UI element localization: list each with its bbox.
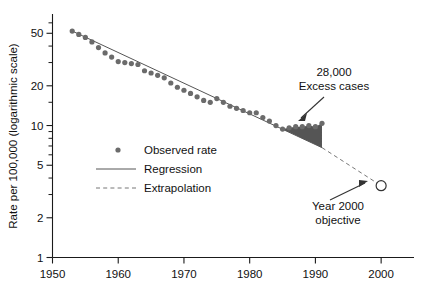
observed-data-point [129, 61, 134, 66]
y-axis-ticks: 125102050 [31, 23, 53, 264]
annotation-excess-cases: 28,000 Excess cases [298, 66, 369, 121]
observed-data-point [254, 110, 259, 115]
observed-data-point [306, 123, 311, 128]
x-tick-label: 1950 [40, 268, 66, 280]
observed-data-point [319, 121, 324, 126]
year-2000-objective-marker [376, 181, 386, 191]
chart-figure: 125102050 195019601970198019902000 Rate … [0, 0, 421, 288]
observed-data-point [300, 124, 305, 129]
legend-item-label: Regression [144, 163, 202, 175]
observed-data-point [201, 98, 206, 103]
annotation-excess-line2: Excess cases [299, 80, 370, 92]
extrapolation-line [322, 148, 381, 186]
observed-data-point [234, 106, 239, 111]
observed-data-point [241, 108, 246, 113]
annotation-excess-arrow [301, 97, 324, 118]
observed-data-point [175, 85, 180, 90]
observed-data-point [188, 91, 193, 96]
legend-item-label: Extrapolation [144, 182, 211, 194]
extrapolation-line-path [322, 148, 381, 186]
y-tick-label: 1 [37, 252, 43, 264]
year-2000-objective-circle [376, 181, 386, 191]
observed-data-point [247, 110, 252, 115]
x-tick-label: 1990 [303, 268, 329, 280]
observed-data-point [109, 55, 114, 60]
annotation-objective-arrowhead [359, 180, 368, 187]
x-tick-label: 1980 [237, 268, 263, 280]
observed-data-point [227, 104, 232, 109]
observed-data-point [168, 80, 173, 85]
observed-data-point [181, 88, 186, 93]
y-tick-label: 2 [37, 212, 43, 224]
x-axis-ticks: 195019601970198019902000 [40, 258, 394, 280]
observed-data-point [273, 123, 278, 128]
observed-data-point [162, 75, 167, 80]
observed-data-point [260, 115, 265, 120]
observed-data-point [148, 70, 153, 75]
observed-rate-points [70, 28, 325, 131]
x-tick-label: 1970 [171, 268, 197, 280]
observed-data-point [214, 96, 219, 101]
legend-item-label: Observed rate [144, 144, 217, 156]
annotation-year-2000-objective: Year 2000 objective [312, 180, 368, 226]
observed-data-point [293, 124, 298, 129]
observed-data-point [287, 125, 292, 130]
annotation-excess-line1: 28,000 [316, 66, 351, 78]
y-axis-title: Rate per 100,000 (logarithmic scale) [7, 43, 19, 229]
observed-data-point [76, 32, 81, 37]
observed-data-point [89, 39, 94, 44]
observed-data-point [116, 59, 121, 64]
observed-data-point [208, 100, 213, 105]
observed-data-point [135, 62, 140, 67]
chart-plot-area: 125102050 195019601970198019902000 Rate … [0, 0, 421, 288]
annotation-objective-line1: Year 2000 [312, 200, 364, 212]
observed-data-point [313, 124, 318, 129]
legend-symbol-dot [115, 147, 120, 152]
annotation-objective-line2: objective [315, 214, 360, 226]
observed-data-point [280, 126, 285, 131]
observed-data-point [96, 45, 101, 50]
observed-data-point [122, 60, 127, 65]
observed-data-point [142, 68, 147, 73]
x-tick-label: 2000 [368, 268, 394, 280]
y-tick-label: 10 [31, 120, 44, 132]
observed-data-point [267, 119, 272, 124]
y-tick-label: 20 [31, 80, 44, 92]
observed-data-point [155, 73, 160, 78]
observed-data-point [102, 50, 107, 55]
observed-data-point [70, 28, 75, 33]
y-tick-label: 50 [31, 27, 44, 39]
x-tick-label: 1960 [105, 268, 131, 280]
observed-data-point [221, 100, 226, 105]
chart-legend: Observed rateRegressionExtrapolation [96, 144, 217, 194]
observed-data-point [83, 35, 88, 40]
y-tick-label: 5 [37, 159, 43, 171]
observed-data-point [195, 94, 200, 99]
